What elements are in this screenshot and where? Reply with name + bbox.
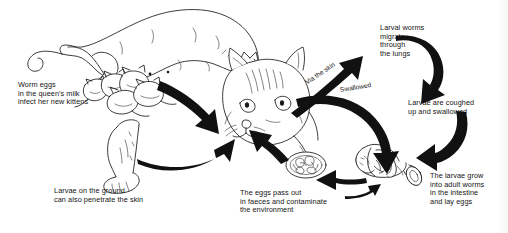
label-worm-eggs-queens-milk: Worm eggs in the queen's milk infect her… bbox=[18, 81, 88, 107]
label-eggs-pass-out-in-faeces: The eggs pass out in faeces and contamin… bbox=[240, 189, 327, 215]
label-larvae-on-the-ground: Larvae on the ground can also penetrate … bbox=[54, 187, 143, 204]
label-larvae-grow-into-adult-worms: The larvae grow into adult worms in the … bbox=[430, 172, 484, 207]
illustration-faeces-with-eggs bbox=[286, 152, 326, 178]
label-larvae-coughed-up-swallowed: Larvae are coughed up and swallowed bbox=[408, 99, 474, 116]
parasite-life-cycle-diagram: .ln{fill:none;stroke:#1a1a1a;stroke-widt… bbox=[0, 0, 508, 233]
label-larval-worms-migrate-lungs: Larval worms migrate through the lungs bbox=[380, 24, 424, 59]
